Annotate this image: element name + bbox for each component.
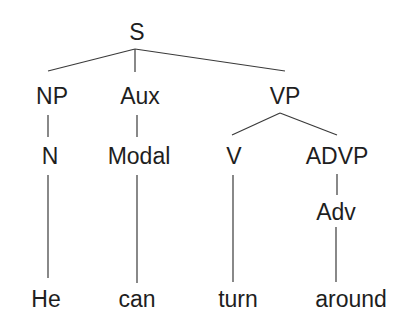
edge-s-vp xyxy=(135,49,285,71)
node-n: N xyxy=(42,143,59,169)
edge-s-np xyxy=(48,49,135,71)
node-vp: VP xyxy=(270,83,301,109)
node-adv: Adv xyxy=(316,199,356,225)
word-turn: turn xyxy=(218,286,258,312)
edge-vp-advp xyxy=(280,113,337,135)
word-he: He xyxy=(31,286,60,312)
node-np: NP xyxy=(36,83,68,109)
node-modal: Modal xyxy=(108,143,171,169)
node-s: S xyxy=(129,19,144,45)
word-can: can xyxy=(118,286,155,312)
word-around: around xyxy=(315,286,387,312)
node-aux: Aux xyxy=(120,83,160,109)
node-advp: ADVP xyxy=(306,143,369,169)
edge-vp-v xyxy=(232,113,280,135)
syntax-tree-diagram: S NP Aux VP N Modal V ADVP Adv He can tu… xyxy=(0,0,413,331)
node-v: V xyxy=(226,143,241,169)
